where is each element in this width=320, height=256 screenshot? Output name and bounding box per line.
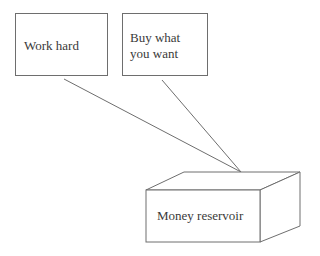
work-hard-label: Work hard: [24, 38, 79, 54]
edge-work-hard-to-reservoir: [64, 79, 241, 172]
money-reservoir-box: [146, 172, 300, 242]
buy-what-you-want-label: Buy what you want: [130, 30, 180, 62]
money-reservoir-label: Money reservoir: [157, 208, 243, 224]
edge-buy-to-reservoir: [162, 80, 241, 172]
